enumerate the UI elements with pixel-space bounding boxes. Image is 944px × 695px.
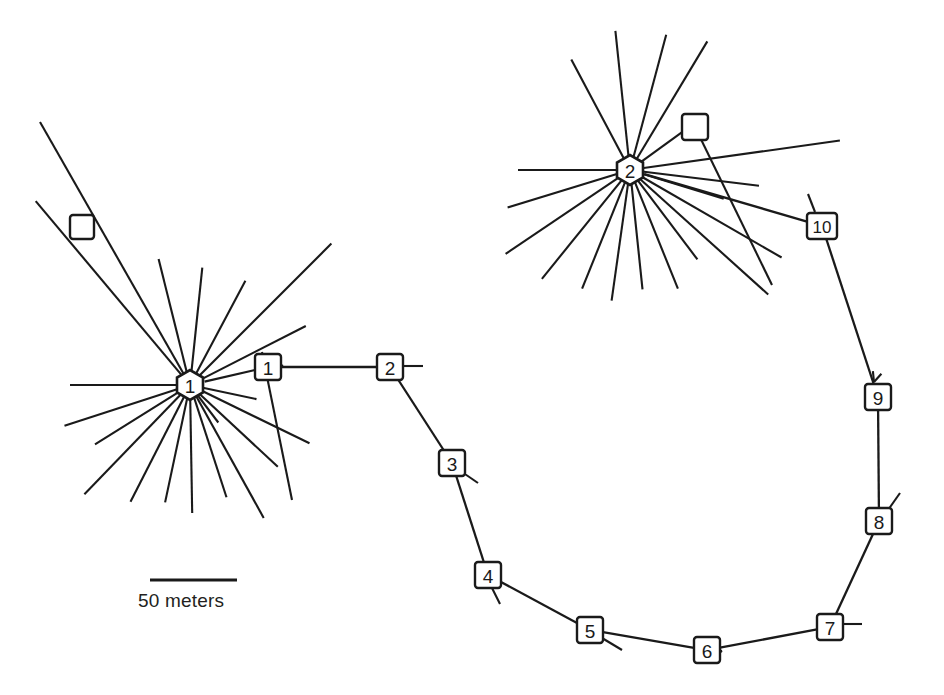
hub-1[interactable]: 1	[177, 370, 203, 400]
box-10-label: 10	[813, 218, 832, 237]
arrow-head-group	[273, 362, 881, 658]
box-8-label: 8	[874, 512, 885, 533]
box-2[interactable]: 2	[377, 354, 403, 380]
scale-bar-caption: 50 meters	[138, 590, 224, 612]
box-8[interactable]: 8	[866, 508, 892, 534]
hub-2-spoke-17	[615, 31, 628, 158]
box-4-label: 4	[483, 566, 494, 587]
hub-1-spoke-2	[95, 391, 180, 444]
diagram-canvas: 12 12345678910 50 meters	[0, 0, 944, 695]
hub-2-spoke-16	[633, 35, 666, 159]
hub-1-spoke-16	[191, 268, 202, 374]
long-line-upper-left	[40, 122, 190, 385]
box-7[interactable]: 7	[817, 614, 843, 640]
empty-box-group	[70, 114, 708, 239]
hub-2-spoke-15	[636, 41, 707, 159]
stub-box4	[492, 588, 500, 604]
chain-edge-box-8-to-box-9	[878, 410, 879, 508]
box-3[interactable]: 3	[439, 450, 465, 476]
hub-2-spoke-group	[506, 31, 840, 301]
hub-node-group: 12	[177, 155, 643, 400]
hub-2-spoke-10	[640, 176, 781, 258]
chain-edge-hub-1-to-box-1	[205, 370, 255, 382]
chain-edge-box-7-to-box-8	[836, 534, 873, 614]
chain-edge-box-5-to-box-6	[603, 632, 694, 648]
empty-box-right[interactable]	[682, 114, 708, 140]
hub-2-spoke-2	[506, 177, 620, 254]
arrow-to-box9-barb-b	[874, 374, 881, 382]
hub-2[interactable]: 2	[617, 155, 643, 185]
hub-1-spoke-8	[196, 396, 264, 518]
hub-2-spoke-13	[642, 141, 840, 169]
hub-1-spoke-3	[84, 394, 181, 495]
box-1[interactable]: 1	[255, 354, 281, 380]
box-9[interactable]: 9	[865, 384, 891, 410]
box-6[interactable]: 6	[694, 637, 720, 663]
box-7-label: 7	[825, 618, 836, 639]
chain-edge-box-3-to-box-4	[456, 476, 484, 562]
stub-box5	[602, 638, 622, 650]
hub-1-label: 1	[185, 376, 196, 397]
box-5-label: 5	[585, 621, 596, 642]
hub-1-spoke-10	[199, 393, 278, 467]
box-6-label: 6	[702, 641, 713, 662]
chain-edge-box-9-to-box-10	[826, 239, 873, 384]
box-5[interactable]: 5	[577, 617, 603, 643]
arrow-to-box9	[873, 371, 882, 382]
hub-1-spoke-1	[65, 389, 179, 426]
chain-edge-box-2-to-box-3	[398, 380, 443, 450]
box-1-label: 1	[263, 358, 274, 379]
chain-edge-group	[205, 174, 879, 648]
hub-1-spoke-12	[202, 388, 257, 400]
box-2-label: 2	[385, 358, 396, 379]
arrow-to-box9-barb-a	[873, 371, 874, 382]
box-4[interactable]: 4	[475, 562, 501, 588]
hub-2-spoke-1	[508, 174, 619, 208]
hub-2-spoke-5	[612, 182, 629, 301]
box-9-label: 9	[873, 388, 884, 409]
box-10[interactable]: 10	[807, 213, 837, 239]
empty-box-left[interactable]	[70, 215, 94, 239]
box-node-group: 12345678910	[255, 213, 892, 663]
chain-edge-box-4-to-box-5	[501, 582, 577, 623]
hub-2-label: 2	[625, 161, 636, 182]
chain-edge-box-6-to-box-7	[720, 629, 817, 647]
box-3-label: 3	[447, 454, 458, 475]
stub-box10	[808, 194, 815, 212]
hub-1-spoke-18	[36, 201, 183, 376]
hub-2-spoke-18	[571, 60, 624, 160]
hub-1-spoke-6	[190, 397, 192, 513]
